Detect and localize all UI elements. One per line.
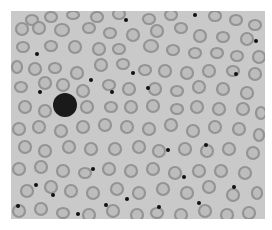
red-blood-cell xyxy=(211,48,223,58)
red-blood-cell xyxy=(99,119,111,131)
red-blood-cell xyxy=(217,32,229,42)
red-blood-cell xyxy=(249,68,261,80)
red-blood-cell xyxy=(33,121,45,133)
red-blood-cell xyxy=(19,141,31,153)
red-blood-cell xyxy=(133,187,145,199)
red-blood-cell xyxy=(45,12,57,22)
platelet-dot xyxy=(91,167,95,171)
platelet-dot xyxy=(16,204,20,208)
red-blood-cell xyxy=(121,121,133,133)
platelet-dot xyxy=(204,143,208,147)
red-blood-cell xyxy=(203,65,215,77)
red-blood-cell xyxy=(171,104,183,114)
red-blood-cell xyxy=(57,79,69,91)
blood-smear-image xyxy=(11,11,265,219)
red-blood-cell xyxy=(131,209,143,219)
red-blood-cell xyxy=(147,163,159,175)
red-blood-cell xyxy=(213,103,225,115)
red-blood-cell xyxy=(253,51,265,63)
red-blood-cell xyxy=(187,125,199,137)
red-blood-cell xyxy=(123,83,135,95)
red-blood-cell xyxy=(230,15,242,25)
red-blood-cell xyxy=(254,129,264,141)
red-blood-cell xyxy=(93,43,105,55)
red-blood-cell xyxy=(194,30,206,42)
red-blood-cell xyxy=(151,25,163,37)
red-blood-cell xyxy=(16,23,28,35)
red-blood-cell xyxy=(83,209,95,219)
red-blood-cell xyxy=(151,208,163,218)
red-blood-cell xyxy=(209,11,221,21)
red-blood-cell xyxy=(49,63,61,73)
red-blood-cell xyxy=(139,65,151,75)
red-blood-cell xyxy=(165,119,177,131)
red-blood-cell xyxy=(79,168,91,178)
red-blood-cell xyxy=(153,145,165,157)
red-blood-cell xyxy=(67,11,79,19)
red-blood-cell xyxy=(233,123,245,135)
red-blood-cell xyxy=(241,87,253,99)
micrograph-canvas xyxy=(11,11,265,219)
red-blood-cell xyxy=(55,24,69,36)
red-blood-cell xyxy=(193,165,205,177)
platelet-dot xyxy=(34,183,38,187)
red-blood-cell xyxy=(165,11,177,20)
red-blood-cell xyxy=(69,41,81,53)
red-blood-cell xyxy=(167,45,179,55)
platelet-dot xyxy=(38,90,42,94)
red-blood-cell xyxy=(133,141,145,153)
red-blood-cell xyxy=(147,100,159,112)
red-blood-cell xyxy=(21,185,33,197)
red-blood-cell xyxy=(181,67,193,79)
red-blood-cell xyxy=(63,141,75,153)
red-blood-cell xyxy=(77,85,89,97)
platelet-dot xyxy=(89,78,93,82)
red-blood-cell xyxy=(256,107,265,119)
red-blood-cell xyxy=(175,209,187,219)
red-blood-cell xyxy=(144,40,158,52)
red-blood-cell xyxy=(241,33,253,45)
red-blood-cell xyxy=(127,29,139,41)
platelet-dot xyxy=(232,185,236,189)
red-blood-cell xyxy=(81,101,93,113)
red-blood-cell xyxy=(243,207,255,219)
red-blood-cell xyxy=(175,23,187,33)
red-blood-cell xyxy=(239,167,251,179)
red-blood-cell xyxy=(57,165,69,177)
red-blood-cell xyxy=(209,121,221,133)
platelet-dot xyxy=(35,52,39,56)
platelet-dot xyxy=(131,71,135,75)
red-blood-cell xyxy=(252,187,262,199)
red-blood-cell xyxy=(39,145,51,157)
red-blood-cell xyxy=(223,143,235,155)
red-blood-cell xyxy=(247,147,259,159)
red-blood-cell xyxy=(201,145,213,157)
red-blood-cell xyxy=(157,183,169,195)
red-blood-cell xyxy=(77,121,89,133)
red-blood-cell xyxy=(83,23,95,33)
red-blood-cell xyxy=(149,83,161,95)
red-blood-cell xyxy=(85,143,97,155)
red-blood-cell xyxy=(143,14,155,24)
red-blood-cell xyxy=(71,67,83,79)
red-blood-cell xyxy=(65,185,77,197)
platelet-dot xyxy=(234,72,238,76)
red-blood-cell xyxy=(33,22,45,34)
red-blood-cell xyxy=(35,203,47,215)
red-blood-cell xyxy=(107,205,119,217)
red-blood-cell xyxy=(29,63,41,75)
red-blood-cell xyxy=(231,51,243,61)
red-blood-cell xyxy=(103,163,115,175)
red-blood-cell xyxy=(15,82,27,92)
red-blood-cell xyxy=(12,61,22,73)
red-blood-cell xyxy=(143,123,155,135)
red-blood-cell xyxy=(171,86,183,96)
platelet-dot xyxy=(157,205,161,209)
red-blood-cell xyxy=(13,163,25,175)
red-blood-cell xyxy=(237,103,249,115)
red-blood-cell xyxy=(19,101,31,113)
red-blood-cell xyxy=(45,41,57,51)
red-blood-cell xyxy=(169,167,181,179)
platelet-dot xyxy=(125,197,129,201)
platelet-dot xyxy=(104,203,108,207)
